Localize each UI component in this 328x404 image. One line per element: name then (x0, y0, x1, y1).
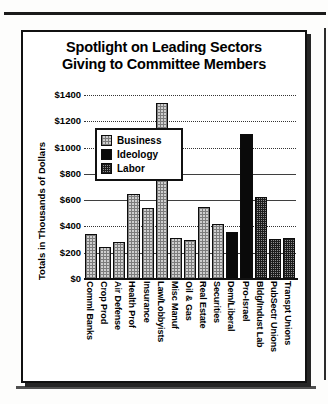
bar (269, 239, 281, 279)
bar (240, 134, 252, 279)
legend-label: Business (117, 135, 161, 146)
plot-area (84, 95, 296, 279)
y-tick-label: $0 (25, 273, 81, 284)
chart-figure: Spotlight on Leading Sectors Giving to C… (21, 30, 307, 383)
y-axis-tick-labels: $1400$1200$1000$800$600$400$200$0 (23, 95, 81, 279)
bar (212, 224, 224, 279)
x-tick-label: Transpt Unions (293, 281, 328, 295)
y-tick-label: $800 (25, 168, 81, 179)
x-axis-line (84, 278, 298, 280)
legend-entry: Ideology (101, 147, 177, 161)
chart-title: Spotlight on Leading Sectors Giving to C… (23, 39, 305, 73)
y-tick-label: $400 (25, 220, 81, 231)
bar (255, 197, 267, 279)
x-tick-label-text: Bldg/Indust Lab (255, 281, 265, 348)
page-column-edge (324, 28, 326, 380)
legend-swatch-ideology-icon (101, 149, 112, 160)
x-tick-label-text: Crop Prod (99, 281, 109, 324)
page-top-rule (4, 12, 326, 15)
bar-series-group (84, 95, 296, 279)
bar (142, 208, 154, 279)
chart-legend: BusinessIdeologyLabor (95, 128, 183, 181)
x-tick-label-text: PubSectr Unions (269, 281, 279, 352)
x-tick-label-text: Dem/Liberal (226, 281, 236, 331)
legend-swatch-labor-icon (101, 163, 112, 174)
chart-title-line-1: Spotlight on Leading Sectors (66, 39, 262, 55)
legend-entry: Labor (101, 161, 177, 175)
x-tick-label-text: Comml Banks (85, 281, 95, 340)
x-tick-label-text: Health Prof (127, 281, 137, 328)
x-tick-label-text: Real Estate (198, 281, 208, 328)
bar (170, 238, 182, 279)
bar (99, 247, 111, 279)
x-tick-label-text: Law/Lobbyists (156, 281, 166, 342)
x-tick-label-text: Oil & Gas (184, 281, 194, 321)
bar (127, 194, 139, 279)
bar (198, 207, 210, 279)
bar (184, 240, 196, 279)
x-tick-label-text: Securities (212, 281, 222, 323)
x-tick-label-text: Pro-Israel (241, 281, 251, 322)
y-tick-label: $1200 (25, 115, 81, 126)
y-tick-label: $1000 (25, 142, 81, 153)
y-tick-label: $600 (25, 194, 81, 205)
bar (283, 238, 295, 279)
x-tick-label-text: Transpt Unions (283, 281, 293, 345)
x-tick-label-text: Insurance (142, 281, 152, 323)
legend-label: Labor (117, 163, 145, 174)
x-axis-tick-labels: Comml BanksCrop ProdAir DefenseHealth Pr… (84, 281, 296, 381)
bar (113, 242, 125, 279)
y-tick-label: $200 (25, 247, 81, 258)
chart-title-line-2: Giving to Committee Members (23, 56, 305, 73)
legend-label: Ideology (117, 149, 158, 160)
legend-entry: Business (101, 133, 177, 147)
bar (226, 232, 238, 279)
x-tick-label-text: Air Defense (113, 281, 123, 330)
scanned-page: Spotlight on Leading Sectors Giving to C… (0, 0, 328, 404)
bar (85, 234, 97, 279)
y-tick-label: $1400 (25, 89, 81, 100)
legend-swatch-business-icon (101, 135, 112, 146)
x-tick-label-text: Misc Manuf (170, 281, 180, 329)
